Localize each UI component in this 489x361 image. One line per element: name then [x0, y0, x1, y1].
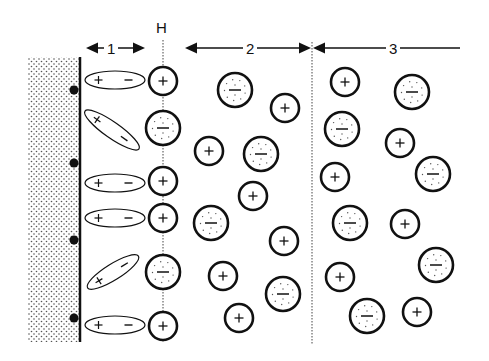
- solvated-anion-ion: [419, 248, 453, 282]
- cation-ion: [149, 167, 177, 195]
- solvated-anion-ion: [325, 112, 359, 146]
- solvent-dipole: [85, 209, 145, 227]
- solvent-dipole: [85, 71, 145, 89]
- cation-ion: [195, 137, 223, 165]
- cation-ion: [326, 263, 354, 291]
- solvated-anion-ion: [218, 73, 252, 107]
- arrowhead-left-icon: [313, 43, 325, 54]
- arrowhead-left-icon: [185, 43, 197, 54]
- solvent-dipoles: [80, 71, 145, 334]
- cation-ion: [225, 304, 253, 332]
- zone-arrows: [86, 43, 460, 54]
- solvent-dipole: [85, 174, 145, 192]
- electrode-wall: [28, 57, 80, 342]
- cation-ion: [321, 163, 349, 191]
- cation-ion: [391, 210, 419, 238]
- cation-ion: [239, 182, 267, 210]
- solvated-anion-ion: [416, 157, 450, 191]
- cation-ion: [331, 68, 359, 96]
- cation-ion: [386, 129, 414, 157]
- surface-charge-dot: [70, 86, 79, 95]
- solvated-anion-ion: [244, 137, 278, 171]
- cation-ion: [271, 94, 299, 122]
- cation-ion: [270, 227, 298, 255]
- cation-ion: [403, 298, 431, 326]
- arrowhead-right-icon: [299, 43, 311, 54]
- solvent-dipole: [83, 249, 142, 294]
- surface-charge-dot: [70, 159, 79, 168]
- h-plane-label: H: [156, 20, 167, 35]
- cation-ion: [149, 67, 177, 95]
- solvent-dipole: [80, 105, 143, 156]
- ions: [146, 67, 453, 340]
- electric-double-layer-diagram: H 1 2 3: [0, 0, 489, 361]
- cation-ion: [149, 312, 177, 340]
- surface-charge-dot: [70, 314, 79, 323]
- solvated-anion-ion: [266, 277, 300, 311]
- arrowhead-right-icon: [133, 43, 145, 54]
- zone-1-label: 1: [104, 41, 118, 56]
- cation-ion: [209, 262, 237, 290]
- solvated-anion-ion: [333, 206, 367, 240]
- zone-2-label: 2: [243, 41, 257, 56]
- solvated-anion-ion: [146, 255, 180, 289]
- solvated-anion-ion: [395, 75, 429, 109]
- solvated-anion-ion: [194, 206, 228, 240]
- surface-charge-dot: [70, 236, 79, 245]
- solvated-anion-ion: [146, 111, 180, 145]
- cation-ion: [149, 204, 177, 232]
- electrode-surface: [28, 57, 80, 342]
- arrowhead-left-icon: [86, 43, 98, 54]
- zone-3-label: 3: [386, 41, 400, 56]
- solvent-dipole: [85, 316, 145, 334]
- solvated-anion-ion: [350, 299, 384, 333]
